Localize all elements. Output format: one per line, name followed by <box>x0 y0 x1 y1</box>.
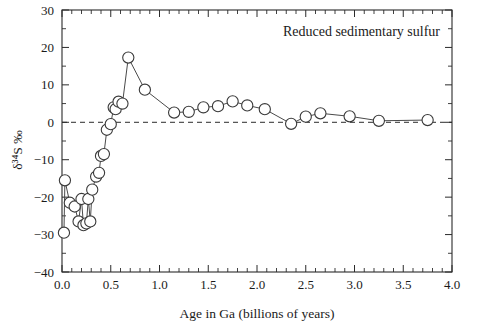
y-tick-label: −20 <box>34 190 54 205</box>
data-point <box>105 119 116 130</box>
data-point <box>344 111 355 122</box>
x-tick-label: 2.5 <box>298 277 314 292</box>
data-point <box>117 98 128 109</box>
data-point <box>123 52 134 63</box>
y-tick-label: 30 <box>41 3 54 18</box>
y-axis-label: δ³⁴S ‰ <box>10 130 25 170</box>
axes-frame <box>62 10 452 272</box>
data-point <box>98 149 109 160</box>
data-series <box>58 52 433 238</box>
x-tick-label: 2.0 <box>249 277 265 292</box>
data-point <box>169 107 180 118</box>
x-tick-label: 3.0 <box>346 277 362 292</box>
data-point <box>227 96 238 107</box>
chart-title: Reduced sedimentary sulfur <box>283 24 440 39</box>
data-point <box>87 184 98 195</box>
data-point <box>286 118 297 129</box>
data-point <box>212 101 223 112</box>
x-tick-label: 4.0 <box>444 277 460 292</box>
y-tick-label: −40 <box>34 265 54 280</box>
x-axis-label: Age in Ga (billions of years) <box>180 306 335 321</box>
y-axis-tick-labels: 3020100−10−20−30−40 <box>34 3 54 280</box>
data-point <box>259 104 270 115</box>
y-axis-ticks <box>62 10 452 272</box>
series-line-0 <box>64 58 428 233</box>
y-tick-label: 10 <box>41 77 54 92</box>
data-point <box>242 100 253 111</box>
data-point <box>198 102 209 113</box>
x-tick-label: 0.5 <box>103 277 119 292</box>
y-tick-label: −10 <box>34 152 54 167</box>
x-tick-label: 1.5 <box>200 277 216 292</box>
data-point <box>59 175 70 186</box>
data-point <box>300 111 311 122</box>
plot-frame <box>62 10 452 272</box>
data-point <box>183 106 194 117</box>
x-tick-label: 1.0 <box>151 277 167 292</box>
y-tick-label: 0 <box>48 115 55 130</box>
data-point <box>422 114 433 125</box>
data-point <box>85 216 96 227</box>
x-tick-label: 3.5 <box>395 277 411 292</box>
x-tick-label: 0.0 <box>54 277 70 292</box>
x-axis-tick-labels: 0.00.51.01.52.02.53.03.54.0 <box>54 277 460 292</box>
data-point <box>58 227 69 238</box>
data-point <box>315 108 326 119</box>
chart-canvas: 0.00.51.01.52.02.53.03.54.0 3020100−10−2… <box>0 0 482 327</box>
y-tick-label: 20 <box>41 40 54 55</box>
x-axis-ticks <box>62 10 452 272</box>
y-tick-label: −30 <box>34 227 54 242</box>
data-point <box>93 167 104 178</box>
data-point <box>139 84 150 95</box>
data-point <box>373 115 384 126</box>
chart-figure: 0.00.51.01.52.02.53.03.54.0 3020100−10−2… <box>0 0 482 327</box>
